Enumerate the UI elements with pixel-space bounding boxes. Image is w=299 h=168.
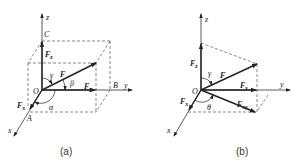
force-decomposition-diagram: z C Fz γ F β Fy O B y Fx α A x (a): [0, 0, 299, 168]
gamma-label: γ: [208, 69, 212, 78]
z-axis-label: z: [45, 13, 50, 22]
Fz-label: Fz: [189, 59, 198, 69]
Fy-label: Fy: [83, 82, 92, 92]
panel-a: z C Fz γ F β Fy O B y Fx α A x (a): [7, 13, 132, 157]
gamma-label: γ: [50, 71, 54, 80]
beta-label: β: [69, 79, 74, 88]
Fy-label: Fy: [239, 81, 248, 91]
Fx-label: Fx: [16, 101, 25, 111]
F-label: F: [59, 70, 66, 79]
origin-O-label: O: [33, 87, 39, 96]
panel-b: z Fz γ F Fy y O Fx θ Fxy x (b): [166, 14, 290, 157]
origin-O-label: O: [192, 87, 198, 96]
point-B-label: B: [113, 81, 118, 90]
y-axis-label: y: [279, 80, 284, 89]
alpha-label: α: [49, 103, 54, 112]
z-axis-label: z: [204, 15, 209, 24]
x-axis-label: x: [166, 126, 171, 135]
x-axis-label: x: [7, 126, 12, 135]
gamma-arc: [201, 78, 212, 85]
beta-arc: [63, 80, 65, 90]
panel-a-caption: (a): [60, 146, 72, 157]
point-C-label: C: [44, 30, 50, 39]
point-A-label: A: [26, 114, 32, 123]
panel-b-caption: (b): [236, 146, 248, 157]
theta-label: θ: [207, 103, 211, 112]
Fxy-label: Fxy: [236, 100, 248, 110]
y-axis-label: y: [123, 81, 128, 90]
Fz-label: Fz: [44, 50, 53, 60]
F-label: F: [219, 71, 226, 80]
Fx-label: Fx: [179, 97, 188, 107]
